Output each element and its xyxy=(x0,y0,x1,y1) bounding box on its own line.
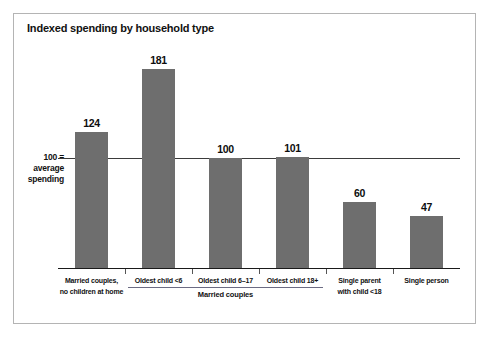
bar xyxy=(75,132,108,268)
x-axis-tick xyxy=(125,269,126,274)
bar-value-label: 47 xyxy=(402,201,452,213)
bar-value-label: 181 xyxy=(134,54,184,66)
category-label-line: Single person xyxy=(394,276,460,287)
reference-line-100 xyxy=(58,158,460,159)
category-label: Oldest child 6–17 xyxy=(193,276,259,287)
category-label-line: no children at home xyxy=(59,287,125,298)
category-label-line: with child <18 xyxy=(327,287,393,298)
reference-line-label-line-2: average xyxy=(14,163,64,174)
category-label: Oldest child 18+ xyxy=(260,276,326,287)
category-label-line: Oldest child 6–17 xyxy=(193,276,259,287)
category-label-line: Married couples, xyxy=(59,276,125,287)
x-axis-tick xyxy=(393,269,394,274)
x-axis-tick xyxy=(259,269,260,274)
category-label: Single parent with child <18 xyxy=(327,276,393,297)
bar xyxy=(410,216,443,268)
bar xyxy=(343,202,376,268)
group-bracket-line xyxy=(128,287,323,288)
plot-area: 100 = average spending 124 181 100 101 6… xyxy=(0,0,491,339)
category-label: Single person xyxy=(394,276,460,287)
bar xyxy=(276,157,309,268)
category-label: Married couples, no children at home xyxy=(59,276,125,297)
group-bracket-label: Married couples xyxy=(128,290,323,299)
bar-value-label: 60 xyxy=(335,187,385,199)
reference-line-label-line-1: 100 = xyxy=(14,152,64,163)
category-label-line: Oldest child 18+ xyxy=(260,276,326,287)
category-label: Oldest child <6 xyxy=(126,276,192,287)
x-axis-tick xyxy=(326,269,327,274)
bar-value-label: 100 xyxy=(201,143,251,155)
category-label-line: Single parent xyxy=(327,276,393,287)
bar-value-label: 124 xyxy=(67,117,117,129)
reference-line-label-line-3: spending xyxy=(14,174,64,185)
bar xyxy=(209,158,242,268)
category-label-line: Oldest child <6 xyxy=(126,276,192,287)
bar-value-label: 101 xyxy=(268,142,318,154)
reference-line-label: 100 = average spending xyxy=(14,152,64,185)
bar xyxy=(142,69,175,268)
chart-container: Indexed spending by household type 100 =… xyxy=(0,0,491,339)
x-axis-tick xyxy=(192,269,193,274)
